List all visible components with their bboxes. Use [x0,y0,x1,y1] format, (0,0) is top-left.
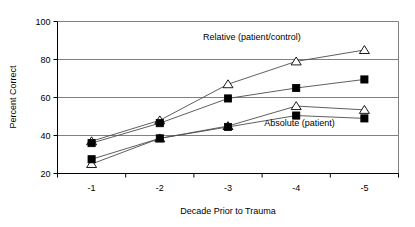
data-point-square [156,120,163,127]
x-tick-label: -1 [88,183,96,193]
data-point-square [361,115,368,122]
x-tick-label: -2 [156,183,164,193]
data-point-square [224,95,231,102]
data-point-square [361,76,368,83]
x-axis-title: Decade Prior to Trauma [180,206,276,216]
y-tick-label: 60 [40,93,50,103]
y-tick-label: 20 [40,169,50,179]
x-tick-label: -4 [292,183,300,193]
x-tick-label: -3 [224,183,232,193]
y-tick-label: 40 [40,131,50,141]
series-annotation-label: Relative (patient/control) [203,32,301,42]
chart-container: 20406080100 -1-2-3-4-5 Percent Correct D… [0,0,415,227]
y-tick-label: 80 [40,55,50,65]
x-tick-label: -5 [360,183,368,193]
percent-correct-line-chart: 20406080100 -1-2-3-4-5 Percent Correct D… [0,0,415,227]
data-point-square [88,156,95,163]
data-point-square [156,135,163,142]
y-axis-title: Percent Correct [8,65,18,129]
y-tick-label: 100 [35,17,50,27]
data-point-square [88,140,95,147]
series-annotation-label: Absolute (patient) [264,118,335,128]
data-point-square [293,84,300,91]
data-point-square [224,123,231,130]
